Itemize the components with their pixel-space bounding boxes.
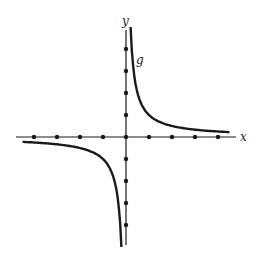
y-tick-dot bbox=[124, 223, 128, 227]
x-axis-label: x bbox=[240, 130, 247, 144]
curve-label-g: g bbox=[136, 53, 144, 67]
x-tick-dot bbox=[78, 135, 82, 139]
x-tick-dot bbox=[147, 135, 151, 139]
reciprocal-graph: x y g bbox=[0, 0, 260, 261]
y-tick-dot bbox=[124, 69, 128, 73]
y-tick-dot bbox=[124, 157, 128, 161]
x-tick-dot bbox=[216, 135, 220, 139]
x-tick-dot bbox=[124, 135, 128, 139]
curve-g-positive-branch bbox=[131, 27, 230, 132]
y-tick-dot bbox=[124, 47, 128, 51]
x-tick-dot bbox=[32, 135, 36, 139]
y-axis-label: y bbox=[121, 14, 129, 28]
y-tick-dot bbox=[124, 91, 128, 95]
y-tick-dot bbox=[124, 201, 128, 205]
y-tick-dot bbox=[124, 179, 128, 183]
y-tick-dot bbox=[124, 113, 128, 117]
x-tick-dot bbox=[170, 135, 174, 139]
x-tick-dot bbox=[101, 135, 105, 139]
curve-g-negative-branch bbox=[23, 142, 122, 247]
x-tick-dot bbox=[193, 135, 197, 139]
x-tick-dot bbox=[55, 135, 59, 139]
